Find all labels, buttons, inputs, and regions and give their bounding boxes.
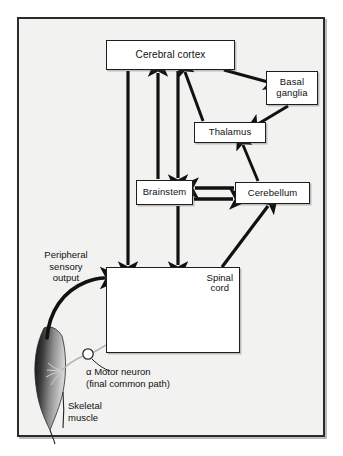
spinal-cord-line-1: Spinal <box>207 272 233 283</box>
node-cerebral-cortex-label: Cerebral cortex <box>136 49 206 60</box>
node-spinal-cord-label: Spinal cord <box>207 273 233 294</box>
node-cerebral-cortex[interactable]: Cerebral cortex <box>106 40 235 70</box>
node-spinal-cord-panel[interactable]: Spinal cord <box>106 267 240 353</box>
label-peripheral-sensory-output: Peripheral sensory output <box>31 249 101 284</box>
skeletal-muscle-illustration <box>35 327 66 430</box>
spinal-cord-line-2: cord <box>211 282 229 293</box>
arrow-cortex-to-basal-ganglia <box>224 70 268 82</box>
muscle-tendon-lower <box>50 430 55 444</box>
basal-ganglia-line-1: Basal <box>280 76 304 87</box>
label-skeletal-muscle: Skeletal muscle <box>68 400 128 423</box>
peripheral-line-3: output <box>53 272 79 283</box>
label-alpha-motor-neuron: α Motor neuron (final common path) <box>86 366 211 389</box>
arrow-spinal-cord-to-cerebellum <box>222 206 268 267</box>
skeletal-muscle-line-1: Skeletal <box>68 400 102 411</box>
arrow-thalamus-to-cortex <box>185 72 203 121</box>
node-brainstem-label: Brainstem <box>143 187 187 198</box>
skeletal-muscle-line-2: muscle <box>68 412 98 423</box>
node-basal-ganglia-label: Basal ganglia <box>276 77 307 98</box>
muscle-tendon-outer <box>63 392 64 428</box>
motor-neuron-soma-icon <box>83 349 93 359</box>
arrow-cerebellum-to-thalamus <box>243 145 258 181</box>
node-brainstem[interactable]: Brainstem <box>136 180 193 205</box>
node-basal-ganglia[interactable]: Basal ganglia <box>266 71 318 105</box>
peripheral-line-1: Peripheral <box>44 249 87 260</box>
figure-root: Cerebral cortex Basal ganglia Thalamus B… <box>0 0 343 456</box>
node-thalamus-label: Thalamus <box>209 127 252 138</box>
node-thalamus[interactable]: Thalamus <box>194 122 266 143</box>
basal-ganglia-line-2: ganglia <box>276 87 307 98</box>
motor-neuron-line-1: α Motor neuron <box>86 366 151 377</box>
peripheral-line-2: sensory <box>49 261 82 272</box>
motor-neuron-line-2: (final common path) <box>86 378 170 389</box>
node-cerebellum-label: Cerebellum <box>248 188 298 199</box>
node-cerebellum[interactable]: Cerebellum <box>235 182 310 204</box>
